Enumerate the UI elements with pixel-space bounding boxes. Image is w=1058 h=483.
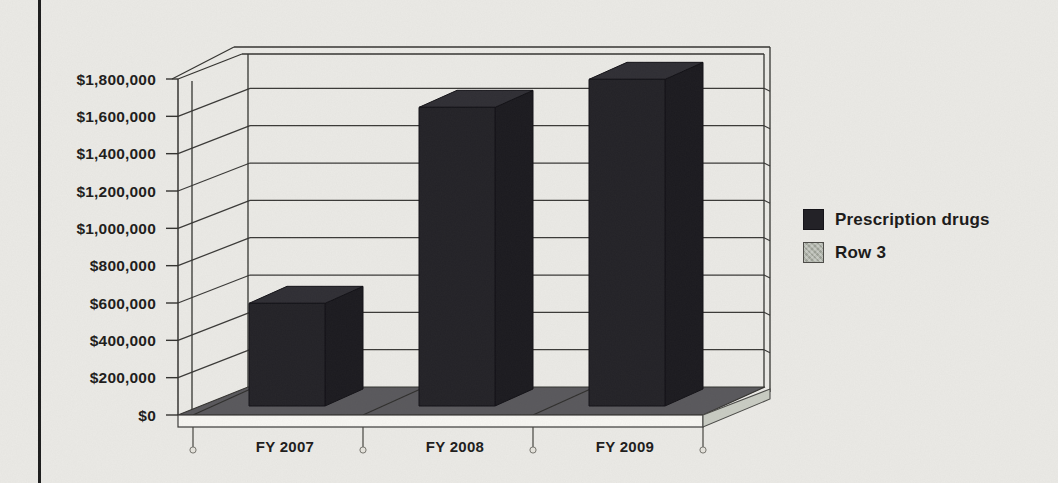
y-axis-label: $600,000 (90, 295, 156, 312)
legend-swatch-row-3 (803, 242, 824, 263)
x-axis-label: FY 2008 (426, 438, 485, 455)
gridline-slant (178, 350, 250, 378)
bar-side-face (325, 286, 363, 406)
x-axis-tick-ball (190, 447, 196, 453)
floor-front-face (178, 415, 703, 427)
bar-side-face (495, 90, 533, 406)
y-axis-label: $1,400,000 (76, 145, 156, 162)
legend-item-prescription-drugs: Prescription drugs (803, 209, 990, 230)
bar-fy-2009 (589, 62, 703, 406)
gridline-hook (764, 275, 770, 278)
x-axis-tick-ball (700, 447, 706, 453)
lid-inner-slant (178, 54, 242, 79)
gridline-hook (764, 200, 770, 203)
gridline-hook (764, 312, 770, 315)
y-axis-label: $1,800,000 (76, 71, 156, 88)
bar-side-face (665, 62, 703, 406)
gridline-slant (178, 163, 250, 191)
gridline-hook (764, 163, 770, 166)
gridline-slant (178, 238, 250, 266)
y-axis-label: $200,000 (90, 369, 156, 386)
x-axis-label: FY 2007 (256, 438, 315, 455)
bar-fy-2007 (249, 286, 363, 406)
bar-front-face (589, 79, 665, 406)
x-axis-tick-ball (360, 447, 366, 453)
chart-legend: Prescription drugs Row 3 (803, 209, 990, 275)
gridline-slant (178, 126, 250, 154)
gridline-slant (178, 88, 250, 116)
y-axis-label: $1,200,000 (76, 183, 156, 200)
y-axis-label: $0 (138, 407, 156, 424)
y-axis-label: $400,000 (90, 332, 156, 349)
bar-front-face (419, 107, 495, 406)
gridline-hook (764, 350, 770, 353)
y-axis-label: $800,000 (90, 257, 156, 274)
gridline-slant (178, 275, 250, 303)
scanned-page: $0$200,000$400,000$600,000$800,000$1,000… (0, 0, 1058, 483)
legend-label-prescription-drugs: Prescription drugs (835, 210, 990, 230)
chart-plot-area: $0$200,000$400,000$600,000$800,000$1,000… (76, 47, 770, 455)
gridline-hook (764, 88, 770, 91)
legend-item-row-3: Row 3 (803, 242, 990, 263)
bar-front-face (249, 303, 325, 406)
gridline-slant (178, 312, 250, 340)
legend-label-row-3: Row 3 (835, 243, 886, 263)
lid-outer-slant (172, 47, 234, 79)
legend-swatch-prescription-drugs (803, 209, 824, 230)
gridline-hook (764, 126, 770, 129)
bar-fy-2008 (419, 90, 533, 406)
gridline-hook (764, 238, 770, 241)
x-axis-label: FY 2009 (596, 438, 655, 455)
y-axis-label: $1,600,000 (76, 108, 156, 125)
y-axis-label: $1,000,000 (76, 220, 156, 237)
gridline-slant (178, 200, 250, 228)
x-axis-tick-ball (530, 447, 536, 453)
